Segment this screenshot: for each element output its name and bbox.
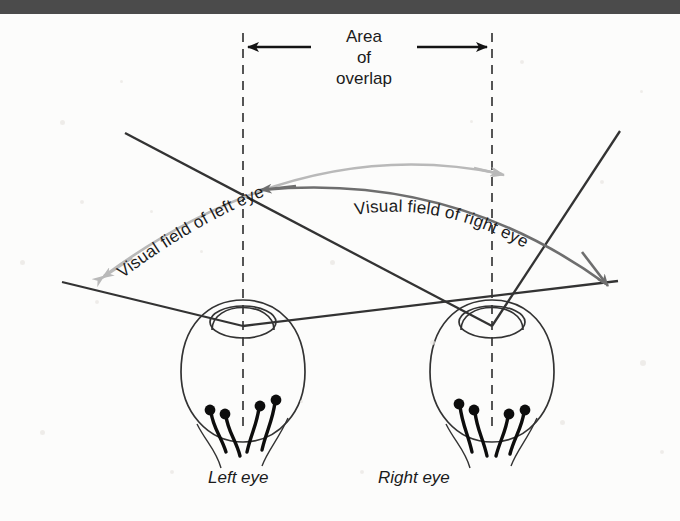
paper-speck: [430, 340, 435, 345]
paper-speck: [640, 90, 643, 93]
area-of-overlap-line3: overlap: [312, 68, 416, 89]
sight-line-left-eye-inner: [243, 281, 618, 326]
paper-speck: [300, 400, 303, 403]
left-eye-visual-field-arc-arrow-end: [474, 168, 504, 175]
paper-speck: [470, 120, 473, 123]
paper-speck: [95, 300, 99, 304]
area-of-overlap-label: Area of overlap: [312, 26, 416, 89]
figure-root: Visual field of left eye Visual field of…: [0, 0, 680, 521]
right-eye-label: Right eye: [378, 468, 450, 488]
paper-speck: [520, 60, 524, 64]
paper-speck: [80, 200, 84, 204]
paper-speck: [360, 470, 364, 474]
left-eye-label: Left eye: [208, 468, 269, 488]
paper-speck: [600, 180, 604, 184]
paper-speck: [20, 260, 25, 265]
paper-speck: [170, 470, 174, 474]
paper-speck: [60, 120, 65, 125]
visual-field-right-label: Visual field of right eye: [353, 197, 532, 252]
paper-speck: [660, 450, 664, 454]
paper-speck: [120, 80, 123, 83]
paper-speck: [560, 420, 565, 425]
paper-speck: [200, 250, 203, 253]
area-of-overlap-line2: of: [312, 47, 416, 68]
paper-speck: [150, 210, 153, 213]
sight-line-right-eye-inner: [125, 133, 492, 326]
area-of-overlap-line1: Area: [312, 26, 416, 47]
paper-speck: [330, 260, 335, 265]
paper-speck: [640, 360, 646, 366]
paper-speck: [40, 430, 45, 435]
